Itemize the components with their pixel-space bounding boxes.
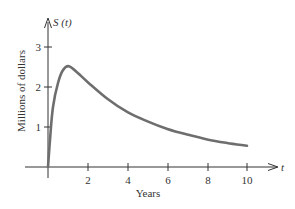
function-label: S (t) [53,16,72,29]
s-curve-line [48,66,247,167]
chart: 1 2 3 S (t) Millions of dollars 2 4 6 8 … [0,0,295,209]
x-axis: 2 4 6 8 10 t Years [25,161,285,199]
x-tick-label: 8 [205,174,211,186]
x-tick-label: 4 [125,174,131,186]
x-axis-symbol: t [281,161,285,173]
y-axis-label: Millions of dollars [15,50,27,132]
y-tick-label: 1 [36,121,42,133]
y-tick-label: 3 [36,41,42,53]
x-tick-label: 2 [85,174,91,186]
x-tick-label: 6 [165,174,171,186]
y-axis: 1 2 3 S (t) Millions of dollars [15,16,72,178]
x-tick-label: 10 [242,174,254,186]
y-tick-label: 2 [36,81,42,93]
x-axis-label: Years [136,187,161,199]
